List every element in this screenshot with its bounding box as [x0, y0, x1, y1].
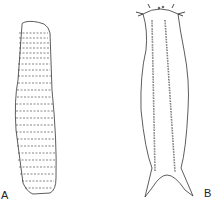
panel-label-b: B [204, 187, 211, 199]
figure-canvas [0, 0, 217, 205]
segment-lines [16, 33, 55, 188]
specimen-a [15, 21, 56, 194]
bristle-rows [152, 20, 175, 172]
panel-label-a: A [1, 189, 8, 201]
specimen-b [136, 4, 193, 197]
